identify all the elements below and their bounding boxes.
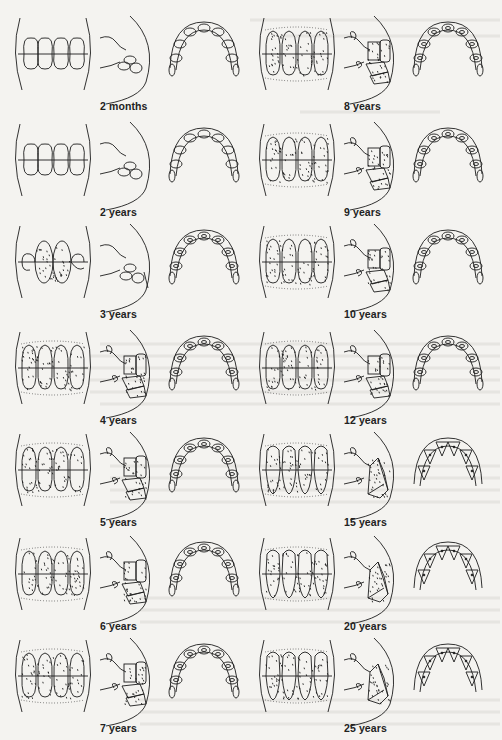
side-view xyxy=(344,432,394,520)
teeth-illustration xyxy=(8,12,248,108)
age-label: 2 months xyxy=(100,100,147,112)
side-view xyxy=(100,330,150,418)
front-view xyxy=(259,332,334,404)
occlusal-view xyxy=(413,336,483,390)
occlusal-view xyxy=(414,438,482,486)
stage-panel: 6 years xyxy=(8,532,248,636)
side-view xyxy=(100,536,150,624)
age-label: 9 years xyxy=(344,206,381,218)
teeth-illustration xyxy=(8,118,248,214)
front-view xyxy=(15,332,90,404)
stage-panel: 5 years xyxy=(8,428,248,532)
occlusal-view xyxy=(414,542,482,590)
stage-panel: 20 years xyxy=(252,532,492,636)
front-view xyxy=(259,434,334,506)
teeth-illustration xyxy=(8,326,248,422)
side-view xyxy=(344,224,394,312)
stage-panel: 25 years xyxy=(252,634,492,738)
teeth-illustration xyxy=(252,634,492,730)
stage-panel: 2 months xyxy=(8,12,248,116)
age-label: 20 years xyxy=(344,620,387,632)
side-view xyxy=(344,122,394,210)
age-label: 10 years xyxy=(344,308,387,320)
age-label: 12 years xyxy=(344,414,387,426)
side-view xyxy=(100,16,150,104)
stage-panel: 2 years xyxy=(8,118,248,222)
stage-panel: 7 years xyxy=(8,634,248,738)
age-label: 2 years xyxy=(100,206,137,218)
occlusal-view xyxy=(169,336,239,390)
teeth-illustration xyxy=(8,634,248,730)
occlusal-view xyxy=(414,644,482,692)
teeth-illustration xyxy=(8,220,248,316)
stage-panel: 4 years xyxy=(8,326,248,430)
stage-panel: 15 years xyxy=(252,428,492,532)
age-label: 25 years xyxy=(344,722,387,734)
stage-panel: 3 years xyxy=(8,220,248,324)
teeth-illustration xyxy=(252,118,492,214)
age-label: 8 years xyxy=(344,100,381,112)
side-view xyxy=(344,638,394,726)
stage-panel: 10 years xyxy=(252,220,492,324)
front-view xyxy=(15,434,90,506)
occlusal-view xyxy=(169,22,239,76)
front-view xyxy=(15,124,90,196)
front-view xyxy=(15,226,90,298)
stage-panel: 8 years xyxy=(252,12,492,116)
occlusal-view xyxy=(413,22,483,76)
age-label: 4 years xyxy=(100,414,137,426)
teeth-illustration xyxy=(8,532,248,628)
teeth-illustration xyxy=(252,220,492,316)
front-view xyxy=(259,640,334,712)
occlusal-view xyxy=(169,128,239,182)
teeth-illustration xyxy=(252,428,492,524)
age-label: 7 years xyxy=(100,722,137,734)
front-view xyxy=(15,18,90,90)
occlusal-view xyxy=(413,128,483,182)
teeth-illustration xyxy=(252,532,492,628)
teeth-illustration xyxy=(8,428,248,524)
front-view xyxy=(259,124,334,196)
occlusal-view xyxy=(169,438,239,492)
front-view xyxy=(15,640,90,712)
occlusal-view xyxy=(169,230,239,284)
occlusal-view xyxy=(413,230,483,284)
side-view xyxy=(344,330,394,418)
side-view xyxy=(100,638,150,726)
age-label: 5 years xyxy=(100,516,137,528)
front-view xyxy=(259,538,334,610)
side-view xyxy=(344,16,394,104)
side-view xyxy=(344,536,394,624)
stage-panel: 12 years xyxy=(252,326,492,430)
teeth-illustration xyxy=(252,12,492,108)
front-view xyxy=(15,538,90,610)
occlusal-view xyxy=(169,542,239,596)
stage-panel: 9 years xyxy=(252,118,492,222)
side-view xyxy=(100,122,150,210)
teeth-illustration xyxy=(252,326,492,422)
occlusal-view xyxy=(169,644,239,698)
age-label: 6 years xyxy=(100,620,137,632)
side-view xyxy=(100,432,150,520)
front-view xyxy=(259,226,334,298)
front-view xyxy=(259,18,334,90)
side-view xyxy=(100,224,150,312)
age-label: 3 years xyxy=(100,308,137,320)
age-label: 15 years xyxy=(344,516,387,528)
